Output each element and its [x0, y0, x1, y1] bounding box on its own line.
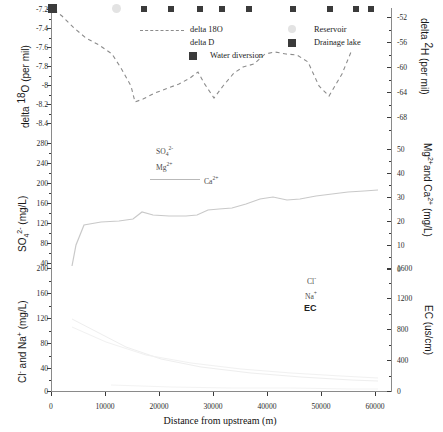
- tick-mid-left-1: 240: [22, 159, 48, 168]
- axis-title-delta2h: delta 2H (per mil): [419, 18, 434, 95]
- tick-bot-left-1: 160: [22, 289, 48, 298]
- xtick-label-0: 0: [31, 402, 71, 411]
- marker-drainage-lake-1[interactable]: [141, 6, 147, 12]
- tick-top-left-1: -7.4: [22, 24, 48, 33]
- xtick-label-4: 40000: [247, 402, 287, 411]
- legend-label-deltad: delta D: [190, 38, 214, 47]
- xtickmark-5: [321, 392, 322, 396]
- figure-root: -7.2 -7.4 -7.6 -7.8 -8 -8.2 -8.4 -52 -56…: [0, 0, 443, 432]
- tick-mid-right-2: 30: [397, 193, 423, 202]
- xtickmark-3: [213, 392, 214, 396]
- tick-mid-right-4: 10: [397, 241, 423, 250]
- panel-cl-na-ec: 200 160 120 80 40 0 1600 1200 800 400 0 …: [0, 265, 443, 432]
- axis-title-cl-na: Cl- and Na+ (mg/L): [16, 300, 28, 383]
- marker-drainage-lake-4[interactable]: [219, 6, 225, 12]
- panel-so4-mg-ca: 280 240 200 160 120 80 40 50 40 30 20 10…: [0, 140, 443, 275]
- site-marker-row: [0, 0, 443, 18]
- tick-bot-left-0: 200: [22, 264, 48, 273]
- tick-mid-right-3: 20: [397, 217, 423, 226]
- tick-top-right-4: -68: [397, 113, 423, 122]
- cl-na-ec-curves: [51, 267, 394, 392]
- xtick-label-3: 30000: [193, 402, 233, 411]
- tick-bot-right-4: 0: [397, 387, 427, 396]
- xtick-label-6: 60000: [355, 402, 395, 411]
- legend-label-delta18o: delta 18O: [190, 25, 223, 34]
- marker-drainage-lake-5[interactable]: [246, 6, 252, 12]
- axis-title-mg-ca: Mg2+and Ca2+ (mg/L): [422, 143, 434, 237]
- so4-curve: [51, 142, 394, 267]
- legend-label-drainage-lake: Drainage lake: [314, 38, 361, 47]
- marker-water-diversion[interactable]: [48, 4, 57, 13]
- axis-title-delta18o: delta 18O (per mil): [16, 45, 31, 128]
- legend-marker-water-diversion: [189, 52, 197, 60]
- legend-dash-sample-delta18o: [140, 30, 184, 31]
- xtick-label-5: 50000: [301, 402, 341, 411]
- legend-label-water-diversion: Water diversion: [210, 51, 263, 60]
- marker-drainage-lake-9[interactable]: [368, 6, 374, 12]
- tick-bot-right-0: 1600: [397, 264, 427, 273]
- legend-marker-drainage-lake: [288, 39, 296, 47]
- tick-bot-left-5: 0: [22, 387, 48, 396]
- tick-mid-right-1: 40: [397, 169, 423, 178]
- tick-bot-right-1: 1200: [397, 294, 427, 303]
- marker-drainage-lake-6[interactable]: [290, 6, 296, 12]
- marker-drainage-lake-3[interactable]: [197, 6, 203, 12]
- marker-drainage-lake-2[interactable]: [168, 6, 174, 12]
- legend-label-reservoir: Reservoir: [314, 25, 347, 34]
- xtickmark-0: [51, 392, 52, 396]
- tick-mid-right-0: 50: [397, 145, 423, 154]
- marker-drainage-lake-8[interactable]: [353, 6, 359, 12]
- xtickmark-6: [375, 392, 376, 396]
- legend-marker-reservoir: [288, 25, 296, 33]
- tick-mid-left-2: 200: [22, 179, 48, 188]
- axis-title-ec: EC (us/cm): [423, 305, 434, 355]
- legend: delta 18O delta D Water diversion Reserv…: [140, 22, 390, 64]
- marker-drainage-lake-7[interactable]: [327, 6, 333, 12]
- xtick-label-2: 20000: [139, 402, 179, 411]
- xtickmark-2: [159, 392, 160, 396]
- tick-bot-right-3: 400: [397, 356, 427, 365]
- marker-reservoir[interactable]: [112, 4, 121, 13]
- xtickmark-1: [105, 392, 106, 396]
- tick-mid-left-0: 280: [22, 139, 48, 148]
- xtick-label-1: 10000: [85, 402, 125, 411]
- axis-title-distance: Distance from upstream (m): [120, 415, 320, 426]
- xtickmark-4: [267, 392, 268, 396]
- axis-title-so4: SO42- (mg/L): [16, 196, 30, 252]
